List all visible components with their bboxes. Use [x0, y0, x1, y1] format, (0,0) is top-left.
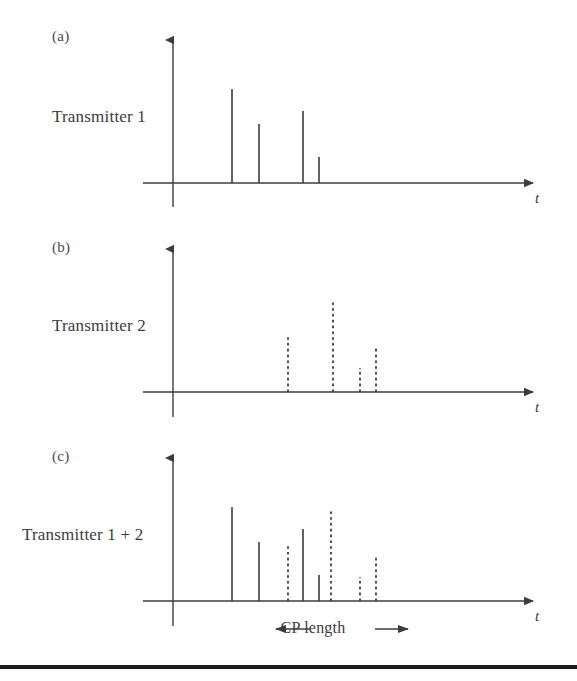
row-label-transmitter-2: Transmitter 2	[52, 316, 146, 336]
cp-length-label: CP length	[281, 619, 346, 637]
panel-c-impulses-transmitter1	[232, 507, 319, 601]
panel-b-impulses	[288, 302, 376, 392]
panel-a-impulses	[232, 89, 319, 183]
panel-c-axes	[143, 458, 533, 626]
row-label-transmitter-1: Transmitter 1	[52, 107, 146, 127]
figure-drawing-layer	[0, 0, 577, 681]
axis-label-t-panel-b: t	[535, 399, 539, 416]
axis-label-t-panel-a: t	[535, 190, 539, 207]
page-edge-artifact	[0, 665, 577, 669]
panel-b-axes	[143, 249, 533, 417]
panel-a-axes	[143, 40, 533, 207]
panel-letter-b: (b)	[52, 239, 70, 256]
axis-label-t-panel-c: t	[535, 608, 539, 625]
row-label-transmitter-1-plus-2: Transmitter 1 + 2	[22, 525, 143, 545]
panel-letter-c: (c)	[52, 448, 70, 465]
panel-letter-a: (a)	[52, 28, 70, 45]
impulse-response-figure: (a) Transmitter 1 t (b) Transmitter 2 t …	[0, 0, 577, 681]
panel-c-impulses-transmitter2	[288, 511, 376, 601]
